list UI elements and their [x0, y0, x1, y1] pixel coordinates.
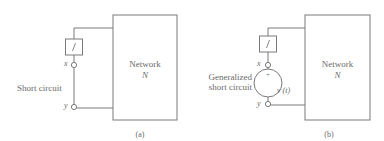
network-symbol-b: N	[305, 71, 370, 80]
top-wire-a	[74, 28, 113, 39]
terminal-y-label-a: y	[64, 102, 68, 110]
caption-a: (a)	[125, 131, 155, 139]
element-glyph-a	[73, 43, 76, 51]
element-glyph-b	[267, 40, 270, 48]
generalized-label-b: Generalized	[196, 73, 252, 82]
caption-b: (b)	[314, 131, 344, 139]
terminal-x-label-a: x	[64, 60, 68, 68]
short-circuit-label-b: short circuit	[196, 83, 252, 92]
source-voltage-label-b: v (t)	[277, 87, 290, 95]
short-circuit-label-a: Short circuit	[17, 84, 62, 93]
terminal-y-label-b: y	[257, 100, 261, 108]
terminal-y-b	[265, 101, 270, 106]
source-polarity-plus-b: +	[263, 72, 273, 78]
terminal-x-b	[265, 62, 270, 67]
terminal-y-a	[71, 104, 76, 109]
network-label-a: Network	[113, 60, 177, 69]
top-wire-b	[268, 28, 305, 36]
terminal-x-label-b: x	[257, 60, 261, 68]
network-label-b: Network	[305, 60, 370, 69]
network-symbol-a: N	[113, 71, 177, 80]
terminal-x-a	[71, 62, 76, 67]
